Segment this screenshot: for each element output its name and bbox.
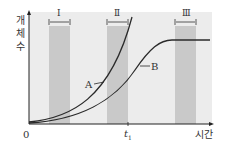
interval-label-3: Ⅲ — [182, 9, 191, 18]
interval-band-1 — [49, 26, 70, 124]
interval-label-1: Ⅰ — [57, 9, 61, 18]
curve-a-label: A — [85, 80, 92, 90]
x-axis-label: 시간 — [195, 130, 213, 140]
interval-band-3 — [175, 26, 196, 124]
t1-label: t1 — [124, 129, 132, 141]
y-axis-label-1: 개 — [16, 16, 25, 26]
t1-sub: 1 — [128, 134, 132, 141]
interval-label-2: Ⅱ — [114, 9, 120, 18]
origin-label: 0 — [23, 130, 29, 140]
y-axis-label-2: 체 — [16, 29, 25, 39]
y-axis-label-3: 수 — [16, 42, 25, 52]
population-growth-diagram — [0, 0, 227, 147]
curve-b-label: B — [151, 62, 158, 72]
